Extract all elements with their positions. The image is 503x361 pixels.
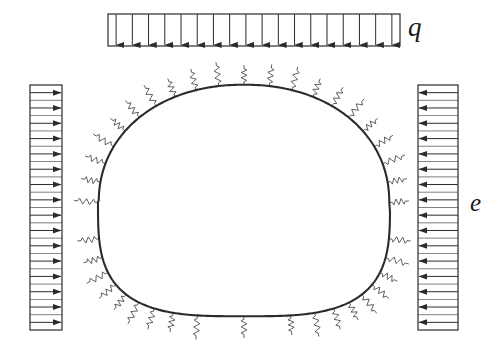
ground-spring [380, 272, 397, 281]
diagram-canvas [0, 0, 503, 361]
ground-spring [267, 65, 274, 86]
ground-spring [389, 199, 408, 205]
ground-spring [386, 257, 409, 265]
lateral-load-label: e [470, 190, 481, 215]
ground-spring [168, 79, 176, 97]
tunnel-load-diagram: q e [0, 0, 503, 361]
ground-spring [291, 67, 299, 90]
ground-spring [126, 101, 139, 118]
ground-spring [114, 294, 126, 309]
ground-spring [193, 315, 199, 339]
ground-spring [87, 272, 108, 283]
vertical-load-block [108, 14, 400, 46]
ground-spring [332, 308, 340, 328]
vertical-load-label: q [408, 14, 422, 41]
vertical-load-outline [108, 14, 400, 46]
ground-spring [82, 177, 101, 184]
ground-spring [241, 316, 247, 337]
ground-spring [332, 88, 343, 107]
ground-spring [99, 285, 116, 299]
ground-spring [363, 118, 377, 131]
ground-spring [388, 177, 407, 184]
ground-spring [214, 63, 221, 86]
ground-spring [128, 302, 139, 323]
ground-spring [362, 294, 377, 313]
ground-spring [144, 86, 156, 106]
tunnel-lining-outline [98, 85, 390, 317]
ground-spring [313, 313, 320, 336]
ground-spring [84, 256, 103, 264]
ground-spring [168, 313, 175, 332]
ground-spring [111, 118, 125, 131]
ground-spring [383, 155, 405, 164]
ground-spring [94, 134, 114, 146]
ground-spring [85, 155, 105, 164]
ground-spring [349, 302, 358, 319]
ground-spring [313, 79, 321, 97]
ground-spring [288, 315, 294, 334]
left-lateral-load-block [30, 85, 62, 330]
ground-spring [190, 69, 198, 90]
ground-spring [78, 236, 99, 243]
ground-spring [389, 237, 410, 244]
right-lateral-load-block [418, 85, 458, 330]
ground-spring [374, 136, 392, 147]
ground-spring [74, 198, 98, 205]
ground-spring [147, 308, 155, 328]
ground-spring [241, 65, 247, 84]
ground-spring [349, 99, 364, 117]
ground-spring [372, 285, 389, 299]
